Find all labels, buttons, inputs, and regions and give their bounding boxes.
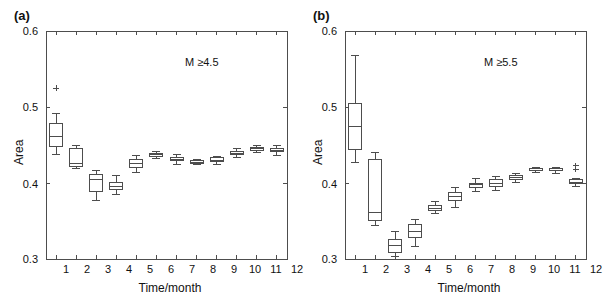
boxplot-box (489, 176, 502, 190)
boxplot-box (389, 232, 402, 257)
boxplot-box (230, 148, 243, 158)
boxplot-box (250, 146, 263, 153)
boxplot-box (349, 55, 362, 162)
boxplot-box (529, 168, 542, 173)
boxplot-box (90, 171, 103, 201)
panel-a-plot-area (0, 0, 299, 303)
boxplot-box (270, 145, 283, 156)
boxplot-box (110, 175, 123, 194)
boxplot-box (50, 85, 63, 155)
boxplot-box (449, 188, 462, 208)
boxplot-box (130, 156, 143, 173)
box-iqr (50, 124, 63, 147)
axes-frame (345, 31, 586, 259)
boxplot-box (190, 159, 203, 164)
boxplot-box (569, 163, 582, 187)
axes-frame (46, 31, 287, 259)
boxplot-box (210, 156, 223, 164)
boxplot-box (409, 219, 422, 246)
box-iqr (489, 180, 502, 186)
box-iqr (369, 159, 382, 220)
boxplot-box (70, 146, 83, 169)
boxplot-box (469, 178, 482, 191)
box-iqr (90, 175, 103, 192)
boxplot-box (170, 155, 183, 164)
boxplot-box (150, 152, 163, 159)
boxplot-box (429, 201, 442, 213)
boxplot-box (509, 173, 522, 182)
panel-b: (b) M ≥5.5 Area 0.6 0.5 0.4 0.3 1 2 3 4 … (299, 0, 598, 303)
boxplot-box (369, 153, 382, 226)
box-iqr (469, 183, 482, 188)
boxplot-box (549, 167, 562, 173)
panel-a: (a) M ≥4.5 Area 0.6 0.5 0.4 0.3 1 2 3 4 … (0, 0, 299, 303)
box-iqr (409, 224, 422, 238)
panel-b-plot-area (299, 0, 598, 303)
